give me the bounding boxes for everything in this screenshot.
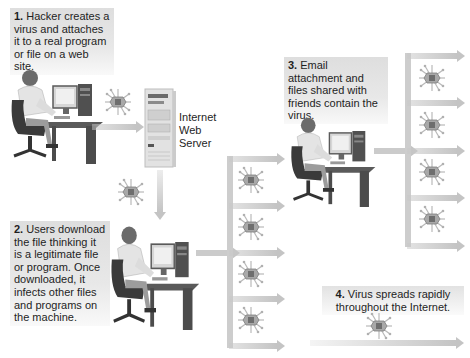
arrow-icon [407, 100, 457, 106]
virus-icon [238, 213, 264, 241]
virus-icon [238, 306, 264, 334]
arrow-icon [407, 243, 457, 249]
server-label: Internet Web Server [179, 111, 223, 150]
step-4-text: Virus spreads rapidly throughout the Int… [336, 288, 451, 313]
arrow-icon [407, 195, 457, 201]
arrow-icon [229, 203, 277, 209]
virus-icon [419, 205, 445, 233]
virus-icon [238, 166, 264, 194]
virus-icon [419, 64, 445, 92]
step-3-number: 3. [288, 59, 297, 71]
step-1-number: 1. [14, 10, 23, 22]
virus-icon [419, 111, 445, 139]
arrow-icon [407, 53, 457, 59]
virus-icon [419, 158, 445, 186]
step-2-number: 2. [14, 223, 23, 235]
hacker-at-computer-icon [8, 64, 108, 164]
step-2-callout: 2. Users download the file thinking it i… [10, 221, 110, 326]
arrow-icon [229, 250, 277, 256]
arrow-icon [157, 170, 163, 212]
step-4-number: 4. [336, 288, 345, 300]
arrow-icon [229, 296, 277, 302]
step-4-callout: 4. Virus spreads rapidly throughout the … [322, 286, 464, 315]
arrow-icon [92, 124, 136, 130]
virus-icon [118, 178, 144, 206]
virus-icon [366, 312, 392, 340]
friend-at-computer-icon [288, 112, 380, 207]
virus-icon [105, 88, 131, 116]
arrow-icon [229, 343, 277, 349]
server-tower-icon [144, 88, 176, 168]
user-at-computer-icon [108, 220, 204, 330]
virus-icon [238, 260, 264, 288]
arrow-icon [407, 148, 457, 154]
step-2-text: Users download the file thinking it is a… [14, 223, 105, 323]
arrow-icon [229, 156, 277, 162]
arrow-icon [310, 340, 456, 346]
